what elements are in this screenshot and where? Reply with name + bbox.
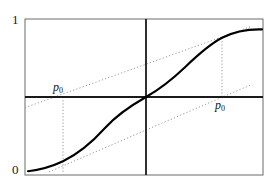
axis-label-top: 1 [12, 13, 19, 26]
sigmoid-figure [0, 0, 278, 192]
p0-right-subscript: 0 [221, 104, 225, 113]
p0-label-left: p0 [53, 81, 63, 93]
figure-background [0, 0, 278, 192]
p0-left-subscript: 0 [59, 86, 63, 95]
p0-label-right: p0 [215, 99, 225, 111]
axis-label-bottom: 0 [12, 163, 19, 176]
